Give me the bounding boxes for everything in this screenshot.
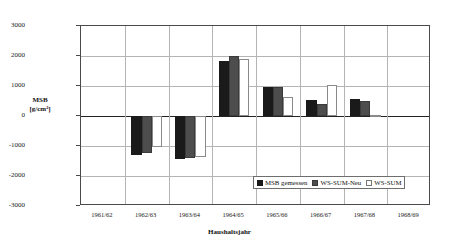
bar bbox=[350, 99, 360, 116]
x-axis-tick-label: 1966/67 bbox=[299, 211, 343, 219]
bar bbox=[273, 87, 283, 116]
bar bbox=[185, 116, 195, 158]
bar bbox=[175, 116, 185, 159]
legend-label: WS-SUM-Neu bbox=[320, 178, 361, 187]
bar bbox=[360, 101, 370, 116]
x-axis-title: Haushaltsjahr bbox=[0, 228, 459, 236]
chart-legend: MSB gemessenWS-SUM-NeuWS-SUM bbox=[253, 176, 405, 189]
bar bbox=[370, 115, 380, 117]
gridline-vertical bbox=[212, 26, 213, 204]
legend-item: WS-SUM bbox=[366, 178, 401, 187]
bar bbox=[306, 100, 316, 116]
bar bbox=[195, 116, 205, 157]
bar bbox=[229, 56, 239, 116]
bar bbox=[263, 87, 273, 116]
y-axis-tick-label: -2000 bbox=[9, 172, 25, 179]
bar bbox=[283, 97, 293, 116]
y-axis-tick-label: 1000 bbox=[11, 82, 25, 89]
gridline-horizontal bbox=[81, 56, 429, 57]
x-axis-tick-label: 1963/64 bbox=[168, 211, 212, 219]
y-axis-tick-label: -1000 bbox=[9, 142, 25, 149]
legend-swatch bbox=[312, 180, 318, 186]
legend-item: WS-SUM-Neu bbox=[312, 178, 361, 187]
x-axis-tick-label: 1965/66 bbox=[255, 211, 299, 219]
bar bbox=[152, 116, 162, 147]
bar bbox=[131, 116, 141, 155]
legend-swatch bbox=[257, 180, 263, 186]
y-axis-title-line1: MSB bbox=[18, 96, 62, 105]
y-axis-tick-label: -3000 bbox=[9, 202, 25, 209]
bar bbox=[317, 104, 327, 116]
bar bbox=[219, 61, 229, 117]
legend-label: WS-SUM bbox=[374, 178, 401, 187]
x-axis-tick-label: 1968/69 bbox=[386, 211, 430, 219]
x-axis-tick-label: 1967/68 bbox=[343, 211, 387, 219]
y-axis-tick-label: 3000 bbox=[11, 22, 25, 29]
legend-label: MSB gemessen bbox=[265, 178, 307, 187]
x-axis-tick-label: 1962/63 bbox=[124, 211, 168, 219]
bar bbox=[327, 85, 337, 117]
x-axis-tick-label: 1961/62 bbox=[80, 211, 124, 219]
legend-swatch bbox=[366, 180, 372, 186]
y-axis-tick-mark bbox=[76, 205, 80, 206]
bar bbox=[239, 59, 249, 116]
y-axis-tick-label: 0 bbox=[22, 112, 26, 119]
gridline-vertical bbox=[125, 26, 126, 204]
x-axis-tick-label: 1964/65 bbox=[211, 211, 255, 219]
gridline-horizontal bbox=[81, 86, 429, 87]
legend-item: MSB gemessen bbox=[257, 178, 307, 187]
y-axis-tick-label: 2000 bbox=[11, 52, 25, 59]
gridline-vertical bbox=[169, 26, 170, 204]
bar bbox=[142, 116, 152, 153]
bar-chart: MSB [g/cm²] 3000200010000-1000-2000-3000… bbox=[0, 0, 459, 249]
